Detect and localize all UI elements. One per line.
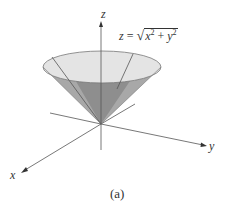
y-axis-label: y (209, 140, 214, 152)
y-axis (101, 124, 203, 145)
y-axis-arrow-icon (201, 143, 208, 148)
figure-caption: (a) (110, 186, 124, 202)
cone-rim (43, 51, 161, 83)
eq-equals: = (127, 29, 134, 43)
eq-lhs: z (119, 29, 124, 43)
x-axis-label: x (10, 169, 15, 181)
eq-exp1: 2 (150, 28, 154, 37)
z-axis-label: z (101, 8, 106, 20)
eq-plus: + (157, 29, 164, 43)
sqrt-icon: √ (136, 28, 144, 43)
x-axis (25, 124, 101, 170)
z-axis-arrow-icon (99, 21, 103, 27)
x-axis-arrow-icon (21, 167, 28, 173)
eq-radicand: x2 + y2 (144, 28, 177, 43)
cone-diagram (0, 0, 229, 213)
eq-exp2: 2 (173, 28, 177, 37)
cone-equation: z = √x2 + y2 (119, 26, 178, 43)
